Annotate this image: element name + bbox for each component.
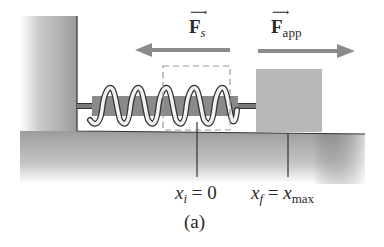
panel-label: (a) [184,211,205,233]
sub: i [183,191,187,206]
vector-arrow-icon: ⟶ [272,5,288,20]
initial-position-label: xi = 0 [175,182,217,204]
eq: = 0 [187,182,217,203]
rhs-sub: max [292,191,314,206]
sub: f [259,191,263,206]
force-subscript: app [283,25,302,40]
vector-arrow-icon: ⟶ [190,5,206,20]
rhs-var: x [283,182,291,203]
applied-force-label: ⟶ Fapp [271,16,301,38]
spring-force-label: ⟶ Fs [189,16,206,38]
block [256,69,322,132]
applied-force-arrow [258,44,355,58]
eq: = [263,182,283,203]
spring [77,88,256,124]
force-subscript: s [201,25,206,40]
spring-force-arrow [135,43,230,57]
final-position-label: xf = xmax [251,182,314,204]
